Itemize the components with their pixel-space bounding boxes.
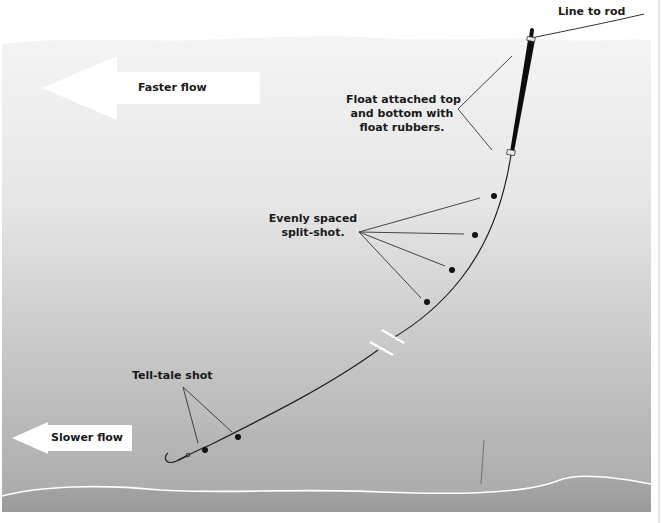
split-shot-4 (424, 299, 430, 305)
float-attached-label: Float attached top and bottom with float… (346, 93, 458, 135)
float-rubber-bottom (507, 149, 516, 155)
faster-flow-label: Faster flow (138, 81, 207, 95)
line-to-rod-label: Line to rod (558, 5, 625, 19)
evenly-spaced-line-1: Evenly spaced (266, 212, 360, 226)
split-shot-2 (472, 232, 478, 238)
float-rig-diagram: Line to rod Faster flow Slower flow Floa… (0, 0, 662, 523)
float-attached-line-3: float rubbers. (346, 121, 458, 135)
float-attached-line-2: and bottom with (346, 107, 458, 121)
tell-tale-shot-2 (202, 447, 208, 453)
slower-flow-label: Slower flow (51, 431, 123, 445)
evenly-spaced-label: Evenly spaced split-shot. (266, 212, 360, 240)
split-shot-3 (449, 267, 455, 273)
evenly-spaced-line-2: split-shot. (266, 226, 360, 240)
float-attached-line-1: Float attached top (346, 93, 458, 107)
tell-tale-label: Tell-tale shot (132, 369, 213, 383)
tell-tale-shot-1 (235, 434, 241, 440)
split-shot-1 (491, 193, 497, 199)
